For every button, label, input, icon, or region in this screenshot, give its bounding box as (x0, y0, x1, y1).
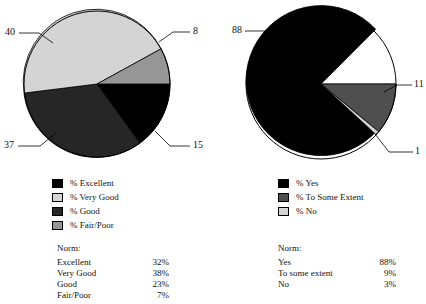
legend-item-no: % No (278, 204, 363, 218)
pie-slice-yes (246, 6, 396, 156)
norm-name: Very Good (57, 268, 143, 279)
norm-value: 32% (143, 257, 169, 268)
norm-row: Yes 88% (278, 257, 396, 268)
legend-item-to-some-extent: % To Some Extent (278, 190, 363, 204)
norm-row: No 3% (278, 279, 396, 290)
satisfaction-pie-chart (0, 0, 213, 170)
satisfaction-pie-area: 40 8 37 15 (0, 0, 213, 170)
norm-name: Fair/Poor (57, 290, 143, 301)
satisfaction-legend: % Excellent % Very Good % Good % Fair/Po… (52, 176, 119, 232)
legend-item-fair-poor: % Fair/Poor (52, 218, 119, 232)
pie-label-no: 1 (415, 146, 420, 156)
pie-label-very-good: 40 (5, 27, 15, 37)
legend-label-very-good: % Very Good (70, 193, 119, 202)
pie-label-to-some-extent: 11 (414, 79, 424, 89)
legend-item-very-good: % Very Good (52, 190, 119, 204)
norm-row: Excellent 32% (57, 257, 169, 268)
leader-line-fair-poor (159, 32, 190, 42)
norm-title: Norm: (57, 243, 169, 254)
recommend-pie-chart (213, 0, 426, 170)
norm-row: To some extent 9% (278, 268, 396, 279)
pie-label-excellent: 15 (193, 140, 203, 150)
recommend-legend: % Yes % To Some Extent % No (278, 176, 363, 218)
norm-title: Norm: (278, 243, 396, 254)
norm-name: No (278, 279, 370, 290)
legend-swatch-very-good (52, 193, 63, 202)
norm-name: Good (57, 279, 143, 290)
norm-name: Yes (278, 257, 370, 268)
norm-row: Very Good 38% (57, 268, 169, 279)
norm-name: Excellent (57, 257, 143, 268)
satisfaction-norm-table: Norm: Excellent 32% Very Good 38% Good 2… (57, 243, 169, 301)
legend-swatch-good (52, 207, 63, 216)
norm-value: 7% (143, 290, 169, 301)
norm-value: 88% (370, 257, 396, 268)
legend-label-no: % No (296, 207, 317, 216)
legend-label-yes: % Yes (296, 179, 319, 188)
norm-value: 3% (370, 279, 396, 290)
leader-line-excellent (155, 131, 190, 146)
norm-name: To some extent (278, 268, 370, 279)
satisfaction-panel: 40 8 37 15 % Excellent % Very Good % Goo… (0, 0, 213, 304)
legend-label-fair-poor: % Fair/Poor (70, 221, 114, 230)
pie-label-yes: 88 (232, 25, 242, 35)
legend-swatch-fair-poor (52, 221, 63, 230)
legend-swatch-excellent (52, 179, 63, 188)
norm-value: 23% (143, 279, 169, 290)
recommend-pie-area: 88 11 1 (213, 0, 426, 170)
norm-row: Good 23% (57, 279, 169, 290)
pie-label-fair-poor: 8 (193, 26, 198, 36)
recommend-panel: 88 11 1 % Yes % To Some Extent % No Norm… (213, 0, 426, 304)
legend-label-to-some-extent: % To Some Extent (296, 193, 363, 202)
norm-value: 9% (370, 268, 396, 279)
legend-swatch-yes (278, 179, 289, 188)
recommend-norm-table: Norm: Yes 88% To some extent 9% No 3% (278, 243, 396, 290)
norm-value: 38% (143, 268, 169, 279)
norm-row: Fair/Poor 7% (57, 290, 169, 301)
pie-label-good: 37 (4, 140, 14, 150)
legend-swatch-no (278, 207, 289, 216)
legend-swatch-to-some-extent (278, 193, 289, 202)
leader-line-no (375, 134, 413, 152)
legend-label-good: % Good (70, 207, 100, 216)
legend-item-yes: % Yes (278, 176, 363, 190)
legend-item-excellent: % Excellent (52, 176, 119, 190)
legend-label-excellent: % Excellent (70, 179, 114, 188)
legend-item-good: % Good (52, 204, 119, 218)
